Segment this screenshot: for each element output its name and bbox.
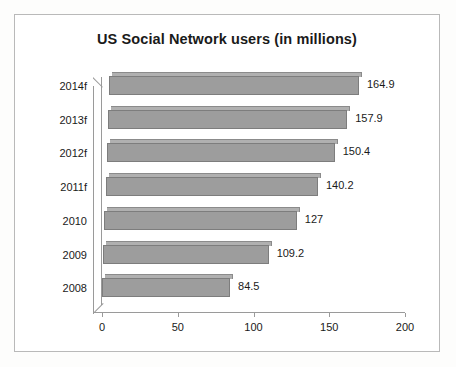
x-tick-mark — [405, 313, 406, 317]
bar-value-label: 109.2 — [277, 245, 305, 261]
chart-page: US Social Network users (in millions) 20… — [0, 0, 456, 367]
bar-row: 164.9 — [109, 72, 412, 104]
x-tick-label-50: 50 — [172, 321, 184, 333]
bar-value-label: 140.2 — [326, 177, 354, 193]
bar-front-face — [109, 76, 359, 95]
bar-value-label: 164.9 — [367, 76, 395, 92]
bar-row: 157.9 — [108, 106, 411, 138]
bar-row: 127 — [104, 207, 407, 239]
bar-row: 109.2 — [103, 241, 406, 273]
bar-value-label: 127 — [305, 211, 323, 227]
category-label-2009: 2009 — [63, 247, 87, 263]
category-label-2012f: 2012f — [59, 145, 87, 161]
bar-2014f[interactable]: 164.9 — [109, 72, 412, 104]
category-label-2013f: 2013f — [59, 112, 87, 128]
category-label-2008: 2008 — [63, 280, 87, 296]
bar-series: 164.9157.9150.4140.2127109.284.5 — [102, 77, 405, 305]
plot-area: 164.9157.9150.4140.2127109.284.5 — [93, 77, 405, 313]
category-label-2010: 2010 — [63, 213, 87, 229]
bar-value-label: 84.5 — [238, 278, 259, 294]
bar-2012f[interactable]: 150.4 — [107, 139, 410, 171]
bar-front-face — [107, 143, 335, 162]
category-axis: 2014f2013f2012f2011f201020092008 — [15, 77, 87, 313]
bar-front-face — [102, 278, 230, 297]
x-tick-label-100: 100 — [244, 321, 262, 333]
bar-2008[interactable]: 84.5 — [102, 274, 405, 306]
x-tick-mark — [254, 313, 255, 317]
bar-row: 150.4 — [107, 139, 410, 171]
axis-wall-front — [93, 86, 94, 314]
bar-row: 84.5 — [102, 274, 405, 306]
bar-2011f[interactable]: 140.2 — [106, 173, 409, 205]
bar-front-face — [104, 211, 296, 230]
category-label-2014f: 2014f — [59, 78, 87, 94]
bar-front-face — [108, 110, 347, 129]
bar-front-face — [106, 177, 318, 196]
x-tick-label-150: 150 — [320, 321, 338, 333]
x-tick-label-0: 0 — [99, 321, 105, 333]
x-axis: 050100150200 — [93, 313, 413, 339]
bar-2010[interactable]: 127 — [104, 207, 407, 239]
bar-value-label: 157.9 — [355, 110, 383, 126]
bar-row: 140.2 — [106, 173, 409, 205]
x-tick-label-200: 200 — [396, 321, 414, 333]
chart-title: US Social Network users (in millions) — [15, 31, 439, 47]
bar-2013f[interactable]: 157.9 — [108, 106, 411, 138]
bar-value-label: 150.4 — [343, 143, 371, 159]
x-tick-mark — [178, 313, 179, 317]
chart-frame: US Social Network users (in millions) 20… — [14, 14, 440, 352]
x-tick-mark — [329, 313, 330, 317]
category-label-2011f: 2011f — [60, 179, 87, 195]
x-tick-mark — [102, 313, 103, 317]
bar-2009[interactable]: 109.2 — [103, 241, 406, 273]
bar-front-face — [103, 245, 268, 264]
